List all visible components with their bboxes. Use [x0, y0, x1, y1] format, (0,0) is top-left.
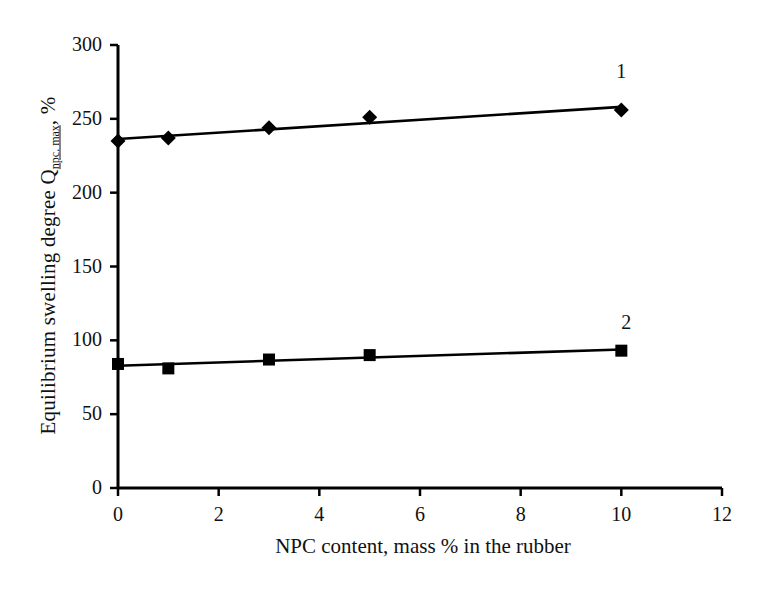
- data-point-marker-diamond: [111, 133, 126, 148]
- data-point-marker-square: [615, 345, 627, 357]
- series-label: 2: [621, 312, 631, 332]
- data-point-marker-diamond: [161, 131, 176, 146]
- x-axis-tick-label: 4: [299, 504, 339, 524]
- data-point-marker-square: [364, 349, 376, 361]
- y-axis-tick-label: 50: [48, 403, 102, 423]
- x-axis-tick-label: 12: [702, 504, 742, 524]
- x-axis-tick-label: 10: [601, 504, 641, 524]
- data-point-marker-square: [263, 354, 275, 366]
- chart-figure: Equilibrium swelling degree Qnpc. max, %…: [0, 0, 762, 596]
- y-axis-tick-label: 200: [48, 182, 102, 202]
- y-axis-tick-label: 150: [48, 256, 102, 276]
- series-label: 1: [616, 61, 626, 81]
- y-axis-tick-label: 100: [48, 329, 102, 349]
- y-axis-tick-label: 250: [48, 108, 102, 128]
- y-axis-tick-label: 0: [48, 477, 102, 497]
- data-point-marker-diamond: [262, 120, 277, 135]
- data-point-marker-diamond: [614, 102, 629, 117]
- x-axis-tick-label: 2: [199, 504, 239, 524]
- x-axis-tick-label: 0: [98, 504, 138, 524]
- data-point-marker-square: [162, 362, 174, 374]
- x-axis-tick-label: 6: [400, 504, 440, 524]
- x-axis-tick-label: 8: [501, 504, 541, 524]
- y-axis-tick-label: 300: [48, 34, 102, 54]
- data-point-marker-square: [112, 358, 124, 370]
